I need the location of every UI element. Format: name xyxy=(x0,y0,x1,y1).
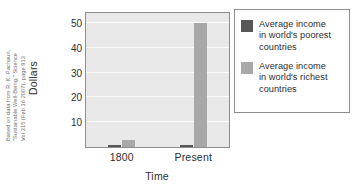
legend-label-richest: Average income in world's richest countr… xyxy=(259,61,328,95)
y-tick-label-30: 30 xyxy=(71,67,82,78)
source-credit-line-1: Based on data from R. K. Pachauri, xyxy=(5,0,12,141)
legend-label-richest-line-1: Average income xyxy=(259,61,328,72)
source-credit-line-2: "Sustainable Well-Being," Science xyxy=(12,0,19,141)
legend-label-poorest-line-3: countries xyxy=(259,42,331,53)
legend-item-richest[interactable]: Average income in world's richest countr… xyxy=(241,61,347,95)
x-axis-tick-labels: 1800Present xyxy=(85,151,230,167)
y-tick-label-10: 10 xyxy=(71,117,82,128)
legend-label-richest-line-3: countries xyxy=(259,84,328,95)
x-axis-title: Time xyxy=(85,170,229,182)
y-tick-label-20: 20 xyxy=(71,92,82,103)
bar-1800-richest xyxy=(122,140,135,147)
legend-label-poorest-line-1: Average income xyxy=(259,19,331,30)
legend-label-poorest-line-2: in world's poorest xyxy=(259,30,331,41)
bar-chart-figure: Based on data from R. K. Pachauri, "Sust… xyxy=(0,0,357,190)
bars-layer xyxy=(86,13,229,147)
legend: Average income in world's poorest countr… xyxy=(234,9,350,113)
legend-swatch-richest-icon xyxy=(241,62,253,74)
x-tick-label-1800: 1800 xyxy=(110,151,134,163)
y-tick-label-50: 50 xyxy=(71,17,82,28)
x-tick-label-present: Present xyxy=(174,151,212,163)
bar-present-richest xyxy=(194,23,207,147)
legend-label-poorest: Average income in world's poorest countr… xyxy=(259,19,331,53)
legend-swatch-poorest-icon xyxy=(241,20,253,32)
y-axis-tick-labels: 1020304050 xyxy=(52,12,82,148)
source-credit: Based on data from R. K. Pachauri, "Sust… xyxy=(5,0,45,141)
source-credit-line-3: Vol 315 (Feb 16 2007), page 913 xyxy=(20,0,27,141)
plot-area xyxy=(85,12,230,148)
legend-label-richest-line-2: in world's richest xyxy=(259,72,328,83)
bar-present-poorest xyxy=(180,145,193,147)
bar-1800-poorest xyxy=(108,145,121,147)
y-tick-label-40: 40 xyxy=(71,42,82,53)
y-axis-title: Dollars xyxy=(27,36,39,120)
legend-item-poorest[interactable]: Average income in world's poorest countr… xyxy=(241,19,347,53)
